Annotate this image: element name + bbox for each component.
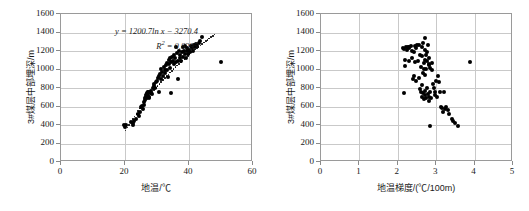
scatter-point xyxy=(423,73,427,77)
gridline-vertical xyxy=(398,14,399,160)
x-axis-tick-label: 1 xyxy=(343,167,373,176)
gridline-horizontal xyxy=(321,70,511,71)
scatter-point xyxy=(150,92,154,96)
x-axis-tick-label: 5 xyxy=(497,167,527,176)
gridline-horizontal xyxy=(61,107,251,108)
x-axis-tick-label: 0 xyxy=(45,167,75,176)
y-axis-tick xyxy=(316,124,320,125)
gridline-horizontal xyxy=(61,70,251,71)
trendline-segment xyxy=(203,42,205,44)
trendline-segment xyxy=(201,43,203,45)
y-axis-tick xyxy=(316,69,320,70)
y-axis-tick-label: 1000 xyxy=(278,64,314,73)
scatter-point xyxy=(141,107,145,111)
x-axis-tick xyxy=(188,161,189,165)
scatter-point xyxy=(403,64,407,68)
plot-area-right xyxy=(320,13,512,161)
scatter-point xyxy=(416,59,420,63)
x-axis-tick xyxy=(60,161,61,165)
x-axis-tick xyxy=(435,161,436,165)
x-axis-tick-label: 60 xyxy=(237,167,267,176)
scatter-point xyxy=(442,90,446,94)
y-axis-tick xyxy=(56,87,60,88)
y-axis-tick xyxy=(56,124,60,125)
trendline-segment xyxy=(200,45,202,47)
scatter-point xyxy=(426,43,430,47)
gridline-horizontal xyxy=(321,125,511,126)
gridline-horizontal xyxy=(61,144,251,145)
scatter-point xyxy=(157,90,161,94)
scatter-point xyxy=(468,60,472,64)
y-axis-tick xyxy=(316,50,320,51)
y-axis-tick-label: 1200 xyxy=(18,46,54,55)
trendline-segment xyxy=(169,72,171,74)
trendline-segment xyxy=(157,85,159,87)
scatter-point xyxy=(169,91,173,95)
y-axis-tick xyxy=(56,13,60,14)
y-axis-tick-label: 1200 xyxy=(278,46,314,55)
scatter-point xyxy=(166,75,170,79)
trendline-segment xyxy=(128,124,130,126)
trendline-segment xyxy=(212,35,214,37)
chart-panel-right: 地温梯度/(℃/100m) 3#煤层中部埋深/m 020040060080010… xyxy=(264,0,529,211)
y-axis-tick-label: 1600 xyxy=(18,9,54,18)
gridline-horizontal xyxy=(321,51,511,52)
y-axis-tick-label: 1000 xyxy=(18,64,54,73)
scatter-point xyxy=(435,95,439,99)
x-axis-tick xyxy=(397,161,398,165)
scatter-point xyxy=(429,96,433,100)
trendline-segment xyxy=(178,63,180,65)
scatter-point xyxy=(421,41,425,45)
trendline-segment xyxy=(171,70,173,72)
y-axis-tick xyxy=(316,143,320,144)
scatter-point xyxy=(131,123,135,127)
scatter-point xyxy=(200,35,204,39)
x-axis-tick-label: 0 xyxy=(305,167,335,176)
scatter-point xyxy=(430,68,434,72)
x-axis-tick-label: 40 xyxy=(173,167,203,176)
scatter-point xyxy=(428,90,432,94)
gridline-horizontal xyxy=(321,33,511,34)
scatter-point xyxy=(219,60,223,64)
scatter-point xyxy=(179,59,183,63)
y-axis-tick xyxy=(56,106,60,107)
trendline-segment xyxy=(176,65,178,67)
y-axis-tick-label: 1400 xyxy=(278,27,314,36)
gridline-vertical xyxy=(475,14,476,160)
scatter-point xyxy=(436,74,440,78)
y-axis-tick-label: 600 xyxy=(18,101,54,110)
x-axis-tick xyxy=(252,161,253,165)
gridline-vertical xyxy=(436,14,437,160)
y-axis-tick xyxy=(316,106,320,107)
y-axis-tick-label: 200 xyxy=(278,138,314,147)
x-axis-tick-label: 2 xyxy=(382,167,412,176)
y-axis-tick-label: 400 xyxy=(278,120,314,129)
scatter-point xyxy=(456,124,460,128)
x-axis-tick xyxy=(124,161,125,165)
x-axis-tick xyxy=(512,161,513,165)
scatter-point xyxy=(412,50,416,54)
y-axis-tick xyxy=(56,69,60,70)
gridline-horizontal xyxy=(61,125,251,126)
trendline-segment xyxy=(175,66,177,68)
x-axis-tick xyxy=(320,161,321,165)
scatter-point xyxy=(428,124,432,128)
y-axis-tick-label: 200 xyxy=(18,138,54,147)
y-axis-tick-label: 600 xyxy=(278,101,314,110)
scatter-point xyxy=(412,74,416,78)
gridline-vertical xyxy=(359,14,360,160)
scatter-point xyxy=(137,114,141,118)
gridline-horizontal xyxy=(321,88,511,89)
y-axis-tick xyxy=(316,13,320,14)
x-axis-title-left: 地温/℃ xyxy=(60,181,252,194)
trendline-segment xyxy=(205,40,207,42)
trendline-segment xyxy=(207,39,209,41)
chart-panel-left: 地温/℃ 3#煤层中部埋深/m y = 1200.7ln x − 3270.4 … xyxy=(0,0,265,211)
x-axis-title-right: 地温梯度/(℃/100m) xyxy=(320,181,512,194)
y-axis-tick-label: 1400 xyxy=(18,27,54,36)
x-axis-tick-label: 20 xyxy=(109,167,139,176)
y-axis-tick-label: 400 xyxy=(18,120,54,129)
scatter-point xyxy=(422,67,426,71)
scatter-point xyxy=(176,77,180,81)
y-axis-tick-label: 800 xyxy=(278,83,314,92)
